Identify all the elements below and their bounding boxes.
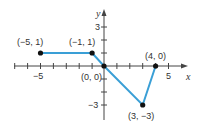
tick-label-x-neg5: −5 — [33, 71, 43, 81]
tick-label-x-5: 5 — [166, 71, 171, 81]
point-label-4-0: (4, 0) — [145, 51, 166, 61]
x-axis-arrow-icon — [181, 64, 188, 69]
point-label-0-0: (0, 0) — [81, 72, 102, 82]
point-neg5-1 — [38, 50, 43, 55]
y-axis-label: y — [95, 8, 101, 19]
tick-label-y-neg3: −3 — [88, 100, 98, 110]
point-label-neg1-1: (−1, 1) — [69, 37, 95, 47]
graph: y x 3 −3 −5 5 (−5, 1) (−1, 1) (0, 0) (3,… — [0, 0, 210, 135]
y-axis-arrow-icon — [102, 9, 107, 16]
point-0-0 — [101, 63, 106, 68]
tick-label-y-3: 3 — [95, 22, 100, 32]
point-4-0 — [153, 63, 158, 68]
point-label-3-neg3: (3, −3) — [128, 111, 154, 121]
point-neg1-1 — [90, 50, 95, 55]
x-axis-label: x — [185, 71, 191, 82]
point-3-neg3 — [140, 102, 145, 107]
point-label-neg5-1: (−5, 1) — [17, 37, 43, 47]
